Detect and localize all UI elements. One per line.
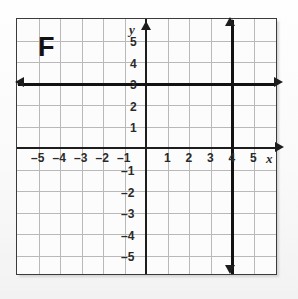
plot-line-y3-arrow-left-icon (15, 77, 24, 87)
y-tick-label-5: 5 (130, 36, 137, 48)
plot-line-x4-arrow-down-icon (225, 265, 235, 274)
y-tick-label-1: 1 (130, 122, 137, 134)
y-tick-label-4: 4 (130, 58, 137, 70)
y-tick-label-neg4: –4 (121, 230, 134, 242)
plot-line-y3-arrow-right-icon (274, 77, 283, 87)
y-tick-label-2: 2 (130, 101, 137, 113)
x-tick-label-1: 1 (164, 152, 171, 164)
y-axis-arrow-up-icon (141, 21, 151, 30)
x-tick-label-neg3: –3 (74, 152, 87, 164)
x-tick-label-5: 5 (250, 152, 257, 164)
x-axis-label: x (266, 152, 273, 165)
x-tick-label-neg5: –5 (31, 152, 44, 164)
y-tick-label-3: 3 (130, 79, 137, 91)
x-tick-label-neg4: –4 (53, 152, 66, 164)
figure-canvas: F y 5 4 3 2 1 –1 –2 –3 –4 –5 –5 –4 –3 –2… (0, 0, 298, 299)
x-tick-label-neg2: –2 (96, 152, 109, 164)
plot-line-horizontal-y3 (18, 83, 274, 86)
y-tick-label-neg2: –2 (121, 187, 134, 199)
x-tick-label-neg1: –1 (117, 152, 130, 164)
point-label-f: F (38, 34, 55, 61)
x-tick-label-3: 3 (207, 152, 214, 164)
y-tick-label-neg5: –5 (121, 251, 134, 263)
x-tick-label-2: 2 (186, 152, 193, 164)
plot-line-vertical-x4 (231, 20, 234, 274)
y-tick-label-neg1: –1 (121, 165, 134, 177)
y-axis (145, 19, 147, 274)
y-tick-label-neg3: –3 (121, 208, 134, 220)
plot-line-x4-arrow-up-icon (225, 17, 235, 26)
x-tick-label-4: 4 (229, 152, 236, 164)
x-axis-arrow-right-icon (275, 142, 284, 152)
coordinate-plane-frame: F y 5 4 3 2 1 –1 –2 –3 –4 –5 –5 –4 –3 –2… (16, 18, 277, 275)
